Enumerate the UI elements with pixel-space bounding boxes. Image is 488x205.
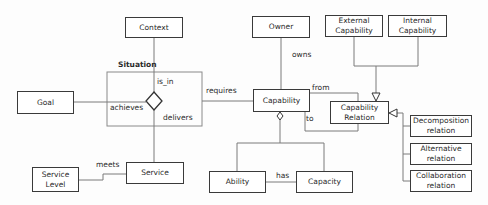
entity-service: Service [126,162,184,184]
relation-label-requires: requires [206,86,237,95]
entity-label: Owner [269,22,294,32]
entity-decomposition-relation: Decomposition relation [410,115,472,137]
entity-label: Context [139,23,168,33]
relation-label-achieves: achieves [110,103,143,112]
entity-label: Internal Capability [389,16,446,36]
entity-context: Context [125,17,183,38]
entity-owner: Owner [252,16,310,38]
entity-label: External Capability [326,16,382,36]
entity-capability-relation: Capability Relation [330,101,389,124]
relationship-diamond [146,92,162,110]
entity-label: Service [141,168,169,178]
entity-label: Decomposition relation [411,116,471,136]
relation-label-owns: owns [292,50,311,59]
entity-label: Ability [226,177,250,187]
entity-capability: Capability [253,89,310,112]
entity-label: Goal [37,98,54,108]
entity-ability: Ability [209,171,266,193]
relation-label-to: to [306,114,314,123]
relation-label-has: has [276,171,289,180]
entity-capacity: Capacity [296,171,353,193]
relation-label-from: from [312,83,329,92]
entity-label: Service Level [33,170,78,190]
diagram-canvas: Context Situation Goal Service Service L… [0,0,488,205]
entity-internal-capability: Internal Capability [388,15,447,37]
relation-label-delivers: delivers [163,113,193,122]
relation-label-is-in: is_in [157,77,174,86]
entity-external-capability: External Capability [325,15,383,37]
entity-goal: Goal [17,91,74,114]
entity-label: Capability [263,96,301,106]
entity-alternative-relation: Alternative relation [410,143,472,165]
group-label-situation: Situation [118,60,157,69]
entity-collaboration-relation: Collaboration relation [410,170,472,192]
entity-service-level: Service Level [32,167,79,192]
relation-label-meets: meets [96,160,119,169]
entity-label: Alternative relation [411,144,471,164]
entity-label: Capability Relation [331,103,388,123]
entity-label: Capacity [308,177,341,187]
entity-label: Collaboration relation [411,171,471,191]
